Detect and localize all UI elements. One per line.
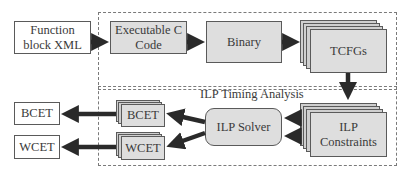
arrow-solver-to-bcet xyxy=(174,115,205,122)
arrow-solver-to-wcet xyxy=(174,133,205,144)
arrows-layer xyxy=(0,0,406,180)
